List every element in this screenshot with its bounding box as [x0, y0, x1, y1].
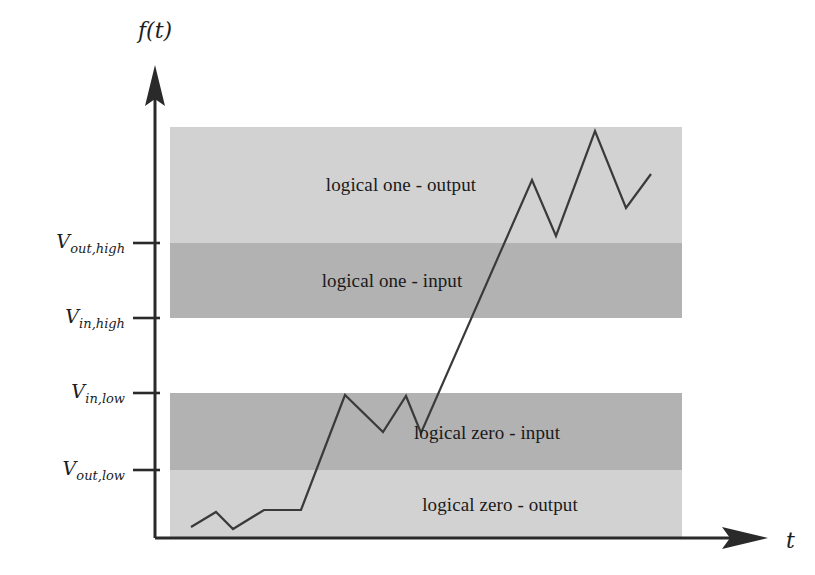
- tick-label-subscript: in,low: [85, 391, 125, 406]
- band-caption-logical-zero-input: logical zero - input: [414, 422, 560, 444]
- band-caption-logical-zero-output: logical zero - output: [422, 494, 578, 516]
- tick-label-v-in-low: Vin,low: [71, 380, 125, 405]
- tick-label-subscript: out,low: [76, 468, 125, 483]
- tick-label-subscript: in,high: [79, 316, 125, 331]
- x-axis-label: t: [786, 528, 795, 553]
- tick-label-base: V: [71, 380, 85, 402]
- band-caption-logical-one-output: logical one - output: [326, 174, 476, 196]
- tick-label-base: V: [65, 305, 79, 327]
- y-axis-label: f(t): [138, 18, 172, 43]
- tick-label-v-out-high: Vout,high: [56, 230, 125, 255]
- tick-label-base: V: [56, 230, 70, 252]
- tick-label-base: V: [62, 457, 76, 479]
- x-axis-label-text: t: [786, 528, 795, 553]
- tick-label-subscript: out,high: [70, 241, 125, 256]
- tick-label-v-out-low: Vout,low: [62, 457, 125, 482]
- y-axis: [145, 65, 165, 538]
- band-caption-logical-one-input: logical one - input: [322, 270, 463, 292]
- tick-label-v-in-high: Vin,high: [65, 305, 125, 330]
- logic-levels-figure: f(t) t Vout,high Vin,high Vin,low Vout,l…: [0, 0, 815, 575]
- y-axis-label-text: f(t): [138, 18, 172, 43]
